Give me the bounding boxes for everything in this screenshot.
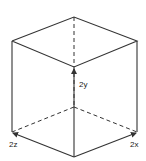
z-axis-arrow: [13, 133, 74, 157]
cube-diagram: [0, 0, 146, 161]
label-2y: 2y: [79, 81, 87, 89]
label-2z: 2z: [9, 141, 17, 149]
hidden-back-left-edge: [12, 107, 74, 132]
label-2x: 2x: [130, 141, 138, 149]
hidden-back-right-edge: [74, 107, 137, 132]
x-axis-arrow: [74, 133, 136, 157]
